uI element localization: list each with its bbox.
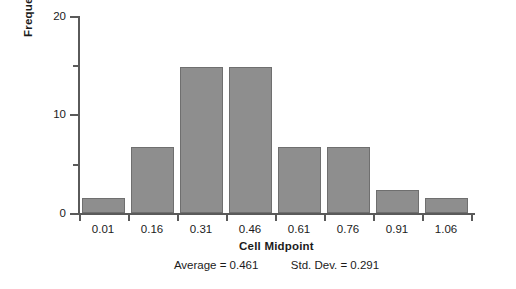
y-tick-0: [70, 213, 78, 215]
x-axis-label: Cell Midpoint: [78, 240, 475, 252]
x-tick-boundary-8: [471, 213, 473, 221]
bar-2: [180, 67, 223, 213]
x-tick-label-7: 1.06: [416, 223, 476, 235]
bar-6: [376, 190, 419, 213]
y-tick-10: [70, 114, 78, 116]
y-tick-minor-15: [73, 65, 78, 67]
y-tick-label-20: 20: [36, 10, 66, 22]
bar-7: [425, 198, 468, 213]
y-axis-line: [78, 16, 80, 214]
bar-1: [131, 147, 174, 213]
x-tick-boundary-6: [373, 213, 375, 221]
x-tick-boundary-2: [177, 213, 179, 221]
y-axis-label: Frequency: [22, 0, 34, 62]
x-tick-boundary-4: [275, 213, 277, 221]
x-tick-boundary-3: [226, 213, 228, 221]
y-tick-20: [70, 16, 78, 18]
statistics-annotation: Average = 0.461 Std. Dev. = 0.291: [78, 259, 475, 271]
average-statistic: Average = 0.461: [174, 259, 259, 271]
x-tick-boundary-0: [79, 213, 81, 221]
x-tick-boundary-7: [422, 213, 424, 221]
histogram-figure: Frequency 20 10 0 0.01 0.16 0.31 0.46 0.…: [0, 0, 516, 289]
x-tick-boundary-5: [324, 213, 326, 221]
y-tick-label-0: 0: [36, 207, 66, 219]
bar-3: [229, 67, 272, 213]
stddev-statistic: Std. Dev. = 0.291: [291, 259, 379, 271]
y-tick-label-10: 10: [36, 108, 66, 120]
bar-5: [327, 147, 370, 213]
x-tick-boundary-1: [128, 213, 130, 221]
bar-4: [278, 147, 321, 213]
bar-0: [82, 198, 125, 213]
y-tick-minor-5: [73, 164, 78, 166]
